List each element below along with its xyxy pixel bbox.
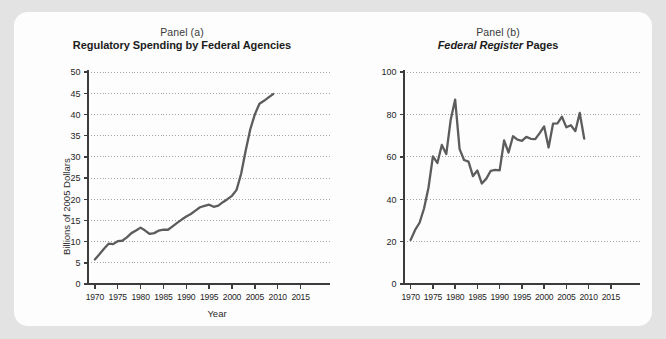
- svg-text:1995: 1995: [513, 292, 532, 302]
- svg-text:40: 40: [70, 110, 80, 120]
- svg-text:40: 40: [386, 195, 396, 205]
- svg-text:1985: 1985: [468, 292, 487, 302]
- svg-text:60: 60: [386, 152, 396, 162]
- panel-a-x-axis-label: Year: [137, 308, 297, 319]
- svg-text:0: 0: [75, 279, 80, 289]
- svg-text:1975: 1975: [424, 292, 443, 302]
- panel-a: Panel (a) Regulatory Spending by Federal…: [22, 12, 342, 326]
- svg-text:80: 80: [386, 110, 396, 120]
- svg-text:1985: 1985: [154, 292, 173, 302]
- svg-text:2010: 2010: [269, 292, 288, 302]
- svg-text:5: 5: [75, 258, 80, 268]
- svg-text:1995: 1995: [200, 292, 219, 302]
- panel-b: Panel (b) Federal Register Pages 0204060…: [344, 12, 652, 326]
- svg-text:2015: 2015: [602, 292, 621, 302]
- svg-text:1970: 1970: [86, 292, 105, 302]
- svg-text:2015: 2015: [291, 292, 310, 302]
- svg-text:0: 0: [391, 279, 396, 289]
- svg-text:35: 35: [70, 131, 80, 141]
- svg-text:100: 100: [381, 67, 396, 77]
- svg-text:20: 20: [386, 237, 396, 247]
- svg-text:50: 50: [70, 67, 80, 77]
- svg-text:2010: 2010: [579, 292, 598, 302]
- svg-text:2000: 2000: [535, 292, 554, 302]
- svg-text:45: 45: [70, 89, 80, 99]
- panel-a-y-axis-label: Billions of 2005 Dollars: [61, 158, 72, 255]
- svg-text:1990: 1990: [490, 292, 509, 302]
- svg-text:1990: 1990: [177, 292, 196, 302]
- figure-root: Panel (a) Regulatory Spending by Federal…: [0, 0, 666, 339]
- svg-text:2000: 2000: [223, 292, 242, 302]
- svg-text:2005: 2005: [557, 292, 576, 302]
- svg-text:1970: 1970: [402, 292, 421, 302]
- svg-text:1975: 1975: [109, 292, 128, 302]
- svg-text:2005: 2005: [246, 292, 265, 302]
- svg-text:1980: 1980: [131, 292, 150, 302]
- figure-card: Panel (a) Regulatory Spending by Federal…: [14, 12, 652, 326]
- svg-text:1980: 1980: [446, 292, 465, 302]
- panel-b-plot: 0204060801001970197519801985199019952000…: [344, 12, 652, 326]
